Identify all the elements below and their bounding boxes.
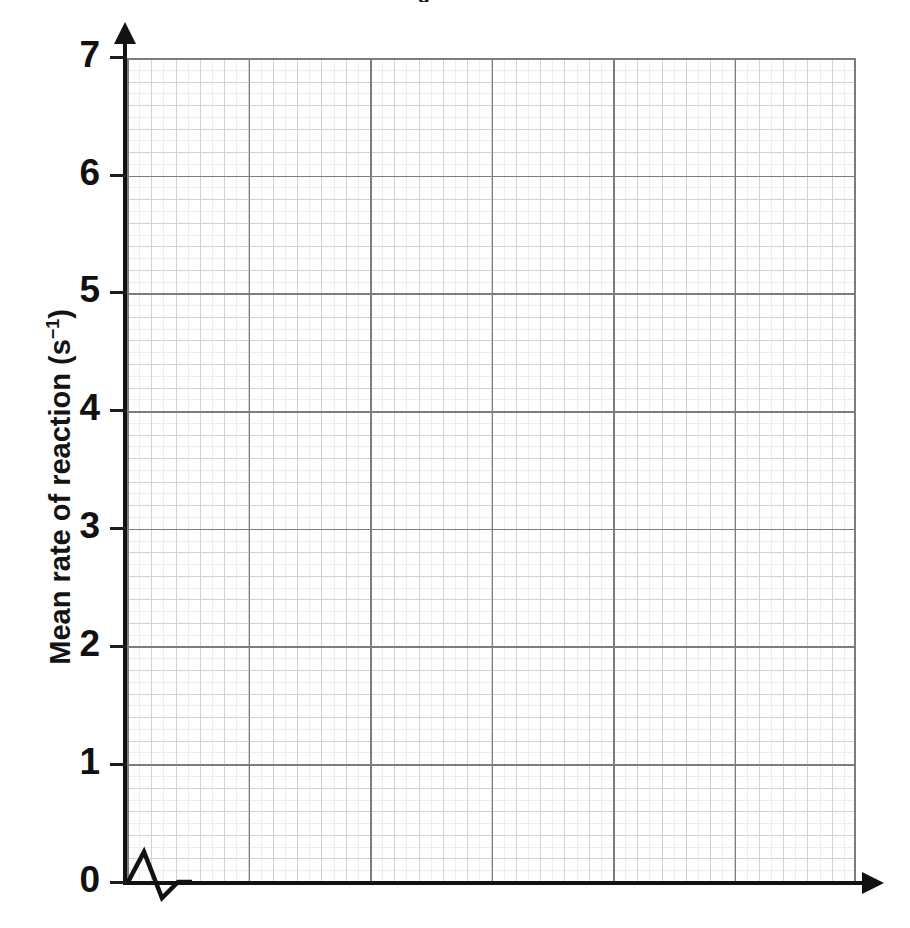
graph-figure: g 7 6 5 4 3 2 1 0 Mean rate of reaction … <box>0 0 910 928</box>
y-tick-2 <box>110 645 127 648</box>
cut-off-title-remnant: g <box>418 0 452 2</box>
y-axis-title-superscript: −1 <box>43 319 63 340</box>
y-tick-0 <box>110 881 127 884</box>
x-axis-right-arrow-icon <box>862 872 884 894</box>
y-axis-title: Mean rate of reaction (s−1) <box>43 207 77 767</box>
y-tick-label-0: 0 <box>64 861 100 898</box>
y-tick-4 <box>110 409 127 412</box>
y-axis-title-suffix: ) <box>44 309 76 319</box>
y-tick-1 <box>110 763 127 766</box>
x-axis-zigzag-break-icon <box>126 846 192 908</box>
plot-grid-area <box>127 58 856 882</box>
y-axis-up-arrow-icon <box>114 22 136 44</box>
x-axis-line <box>123 881 871 885</box>
y-tick-7 <box>110 56 127 59</box>
y-axis-title-text: Mean rate of reaction (s <box>44 339 76 665</box>
y-tick-6 <box>110 174 127 177</box>
y-tick-5 <box>110 291 127 294</box>
y-tick-label-6: 6 <box>64 154 100 191</box>
y-axis-line <box>123 30 127 885</box>
y-tick-3 <box>110 527 127 530</box>
y-tick-label-7: 7 <box>64 36 100 73</box>
